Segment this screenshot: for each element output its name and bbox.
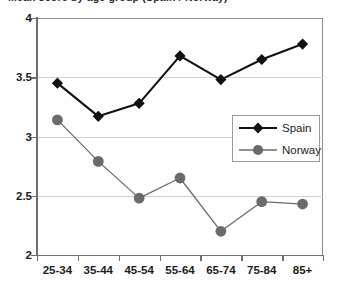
- legend-item-norway: Norway: [233, 139, 319, 161]
- data-point-norway-25-34: [52, 115, 63, 126]
- line-chart: Mean score by age group (Spain / Norway)…: [0, 0, 337, 292]
- legend-label-spain: Spain: [282, 122, 311, 134]
- data-point-norway-75-84: [256, 196, 267, 207]
- data-point-norway-55-64: [175, 173, 186, 184]
- legend-swatch-spain: [238, 121, 278, 135]
- data-point-spain-85+: [297, 38, 308, 49]
- data-point-norway-65-74: [215, 226, 226, 237]
- legend-swatch-norway: [238, 143, 278, 157]
- data-point-norway-35-44: [93, 156, 104, 167]
- data-point-norway-85+: [297, 199, 308, 210]
- data-point-norway-45-54: [134, 193, 145, 204]
- legend-item-spain: Spain: [233, 117, 319, 139]
- data-point-spain-65-74: [215, 74, 226, 85]
- legend: Spain Norway: [232, 115, 320, 162]
- legend-label-norway: Norway: [282, 144, 321, 156]
- data-point-spain-75-84: [256, 54, 267, 65]
